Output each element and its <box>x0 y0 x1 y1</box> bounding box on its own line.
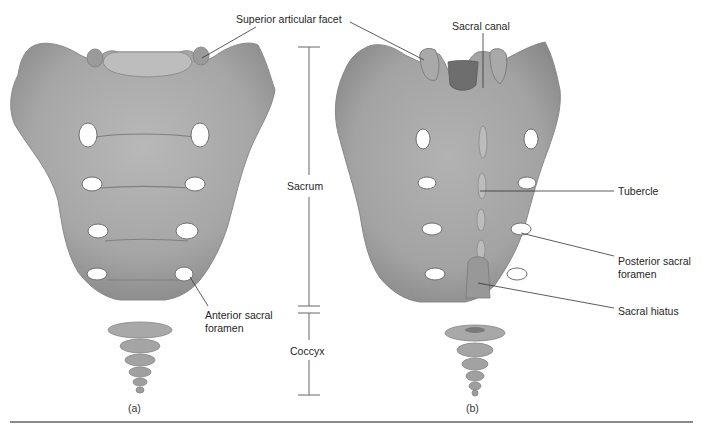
label-sacral-canal: Sacral canal <box>452 20 510 32</box>
posterior-coccyx <box>445 325 505 396</box>
bracket-label-sacrum: Sacrum <box>287 180 323 192</box>
leader-sacral-hiatus <box>478 283 614 308</box>
caption-panel-b: (b) <box>466 402 479 414</box>
bottom-divider <box>10 421 693 423</box>
sacrum-coccyx-illustration <box>0 0 702 429</box>
label-anterior-sacral-foramen-1: Anterior sacral <box>205 309 273 321</box>
sacral-canal-opening <box>448 61 478 91</box>
label-tubercle: Tubercle <box>618 185 658 197</box>
posterior-sacrum <box>335 42 560 302</box>
caption-panel-a: (a) <box>128 402 141 414</box>
anterior-coccyx <box>108 322 172 393</box>
region-brackets <box>298 47 320 395</box>
bracket-label-coccyx: Coccyx <box>290 345 324 357</box>
label-anterior-sacral-foramen-2: foramen <box>205 322 244 334</box>
leader-posterior-foramen <box>521 233 614 256</box>
sacral-hiatus-opening <box>466 257 490 298</box>
label-sacral-hiatus: Sacral hiatus <box>618 305 679 317</box>
anterior-sacrum <box>11 43 275 300</box>
label-superior-articular-facet: Superior articular facet <box>236 13 342 25</box>
label-posterior-sacral-foramen-1: Posterior sacral <box>618 255 691 267</box>
label-posterior-sacral-foramen-2: foramen <box>618 268 657 280</box>
